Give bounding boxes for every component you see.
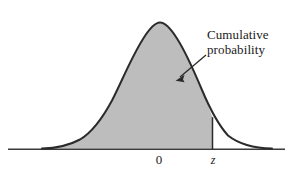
- callout-line-2: probability: [207, 42, 269, 57]
- axis-tick-label-zero: 0: [147, 152, 171, 168]
- cumulative-probability-figure: Cumulative probability 0 z: [0, 0, 295, 178]
- cumulative-probability-label: Cumulative probability: [207, 27, 269, 57]
- callout-line-1: Cumulative: [207, 27, 269, 42]
- axis-tick-label-z: z: [201, 153, 225, 168]
- shaded-cumulative-area: [42, 23, 213, 149]
